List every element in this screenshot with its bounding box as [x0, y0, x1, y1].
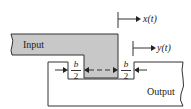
- x-arrow-head: [136, 16, 141, 22]
- y-arrow-head: [151, 45, 156, 51]
- left-gap-denominator: 2: [71, 72, 81, 81]
- y-signal-label: y(t): [157, 43, 171, 53]
- input-label: Input: [23, 40, 44, 50]
- output-label: Output: [147, 87, 175, 97]
- left-gap-fraction: b 2: [71, 60, 81, 81]
- right-gap-denominator: 2: [121, 72, 131, 81]
- backlash-diagram: Input Output x(t) y(t) b 2 b 2: [0, 0, 191, 109]
- right-gap-fraction: b 2: [121, 60, 131, 81]
- right-gap-numerator: b: [121, 60, 131, 69]
- left-gap-numerator: b: [71, 60, 81, 69]
- x-signal-label: x(t): [143, 14, 157, 24]
